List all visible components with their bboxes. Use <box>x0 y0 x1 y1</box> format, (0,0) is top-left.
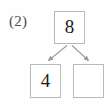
whole-value: 8 <box>65 17 75 36</box>
arrow-to-left-part <box>49 46 68 61</box>
exercise-number-label: (2) <box>9 13 27 29</box>
whole-box[interactable]: 8 <box>54 11 85 44</box>
part-box-right-blank[interactable] <box>73 64 104 98</box>
arrow-to-right-part <box>72 46 89 61</box>
part-box-left[interactable]: 4 <box>30 64 61 98</box>
part-left-value: 4 <box>41 71 51 90</box>
number-bond-diagram: (2) 8 4 <box>0 0 105 106</box>
